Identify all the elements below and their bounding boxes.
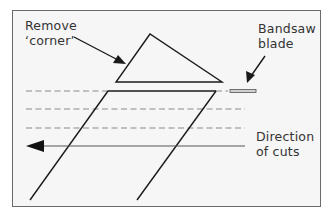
direction-arrow [26,140,245,152]
bandsaw-blade [230,90,256,93]
label-remove-corner: Remove ‘corner’ [25,18,77,48]
bandsaw-blade-pointer [246,56,265,83]
arrow-left-icon [26,140,44,152]
label-direction-of-cuts: Direction of cuts [256,129,314,159]
remove-corner-pointer [74,37,126,64]
label-bandsaw-blade: Bandsaw blade [258,21,316,51]
arrow-pointer-icon [113,55,126,64]
corner-triangle [116,34,222,82]
